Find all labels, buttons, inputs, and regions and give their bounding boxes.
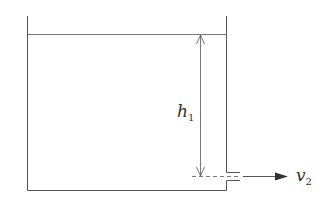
- height-label: h1: [177, 101, 194, 123]
- flow-arrowhead-icon: [275, 173, 288, 181]
- velocity-label: v2: [296, 165, 312, 187]
- tank-diagram: h1 v2: [0, 0, 329, 211]
